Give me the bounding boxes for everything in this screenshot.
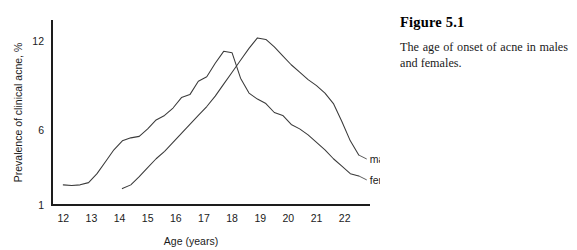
x-tick-label: 19	[254, 212, 266, 224]
series-line-males	[122, 38, 358, 189]
x-tick-label: 18	[226, 212, 238, 224]
leader-line-females	[359, 176, 367, 180]
x-tick-label: 14	[114, 212, 126, 224]
figure-container: 1213141516171819202122 1612 Age (years) …	[0, 0, 577, 250]
chart-area: 1213141516171819202122 1612 Age (years) …	[0, 0, 380, 250]
series-line-females	[63, 51, 358, 185]
y-tick-label: 1	[38, 199, 44, 211]
x-tick-label: 15	[142, 212, 154, 224]
y-axis-tick-labels: 1612	[32, 35, 44, 211]
acne-prevalence-line-chart: 1213141516171819202122 1612 Age (years) …	[0, 0, 380, 250]
leader-line-males	[359, 155, 367, 159]
x-tick-label: 20	[283, 212, 295, 224]
x-axis-title: Age (years)	[164, 235, 218, 247]
x-tick-label: 16	[170, 212, 182, 224]
figure-number: Figure 5.1	[400, 14, 568, 31]
x-axis-tick-labels: 1213141516171819202122	[57, 212, 350, 224]
x-tick-label: 22	[339, 212, 351, 224]
figure-caption-block: Figure 5.1 The age of onset of acne in m…	[400, 14, 568, 71]
y-tick-label: 12	[32, 35, 44, 47]
figure-caption-text: The age of onset of acne in males and fe…	[400, 40, 568, 71]
x-tick-label: 13	[86, 212, 98, 224]
chart-axes	[52, 20, 370, 205]
series-label-females: females	[370, 174, 380, 186]
y-tick-label: 6	[38, 124, 44, 136]
x-tick-label: 21	[311, 212, 323, 224]
y-axis-title: Prevalence of clinical acne, %	[12, 43, 24, 183]
x-tick-label: 12	[57, 212, 69, 224]
series-label-males: males	[370, 153, 380, 165]
x-tick-label: 17	[198, 212, 210, 224]
